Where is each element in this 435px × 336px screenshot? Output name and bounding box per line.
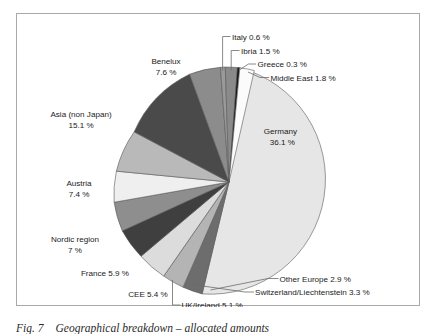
label-austria-name: Austria bbox=[66, 179, 92, 188]
label-greece: Greece 0.3 % bbox=[258, 60, 308, 69]
label-france: France 5.9 % bbox=[81, 269, 129, 278]
pie-slices bbox=[114, 67, 326, 294]
pie-chart-svg: Germany 36.1 % Other Europe 2.9 % Switze… bbox=[17, 14, 421, 307]
label-germany-name: Germany bbox=[264, 127, 298, 136]
leader-line-italy bbox=[223, 37, 231, 71]
label-ibria: Ibria 1.5 % bbox=[241, 47, 280, 56]
label-middle-east: Middle East 1.8 % bbox=[271, 74, 336, 83]
label-other-europe: Other Europe 2.9 % bbox=[280, 275, 352, 284]
figure-caption-text: Geographical breakdown – allocated amoun… bbox=[55, 322, 269, 334]
pie-chart: Germany 36.1 % Other Europe 2.9 % Switze… bbox=[17, 14, 421, 307]
figure-frame: Germany 36.1 % Other Europe 2.9 % Switze… bbox=[16, 13, 420, 306]
label-uk-ireland: UK/Ireland 5.1 % bbox=[182, 301, 243, 307]
label-asia-non-japan-value: 15.1 % bbox=[68, 121, 93, 130]
label-asia-non-japan-name: Asia (non Japan) bbox=[50, 110, 111, 119]
label-nordic-region-name: Nordic region bbox=[51, 235, 99, 244]
label-benelux-name: Benelux bbox=[151, 57, 180, 66]
label-switzerland-liechtenstein: Switzerland/Liechtenstein 3.3 % bbox=[255, 288, 370, 297]
label-germany-value: 36.1 % bbox=[270, 138, 295, 147]
label-italy: Italy 0.6 % bbox=[232, 33, 270, 42]
label-nordic-region-value: 7 % bbox=[68, 246, 82, 255]
figure-caption: Fig. 7Geographical breakdown – allocated… bbox=[16, 322, 420, 334]
label-cee: CEE 5.4 % bbox=[128, 290, 168, 299]
figure-caption-number: Fig. 7 bbox=[16, 322, 43, 334]
label-benelux-value: 7.6 % bbox=[156, 68, 177, 77]
label-austria-value: 7.4 % bbox=[69, 190, 90, 199]
